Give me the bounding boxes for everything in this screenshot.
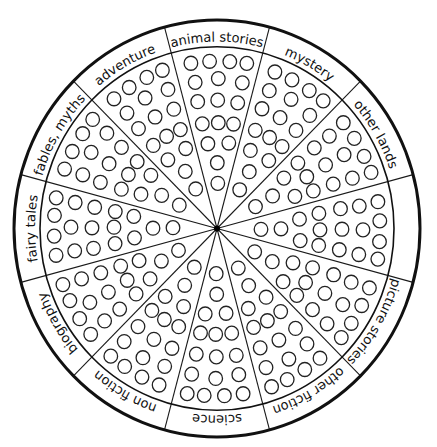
reading-slot-circle[interactable] xyxy=(261,314,275,328)
reading-slot-circle[interactable] xyxy=(298,363,312,377)
reading-slot-circle[interactable] xyxy=(312,238,326,252)
reading-slot-circle[interactable] xyxy=(211,176,225,190)
reading-slot-circle[interactable] xyxy=(48,208,62,222)
reading-slot-circle[interactable] xyxy=(209,327,223,341)
reading-slot-circle[interactable] xyxy=(327,268,341,282)
reading-slot-circle[interactable] xyxy=(140,70,154,84)
reading-slot-circle[interactable] xyxy=(337,148,351,162)
reading-slot-circle[interactable] xyxy=(242,279,256,293)
reading-slot-circle[interactable] xyxy=(47,229,61,243)
reading-slot-circle[interactable] xyxy=(135,370,149,384)
reading-slot-circle[interactable] xyxy=(156,63,170,77)
reading-slot-circle[interactable] xyxy=(259,290,273,304)
reading-slot-circle[interactable] xyxy=(222,136,236,150)
reading-slot-circle[interactable] xyxy=(158,289,172,303)
reading-slot-circle[interactable] xyxy=(249,200,263,214)
reading-slot-circle[interactable] xyxy=(316,94,330,108)
reading-slot-circle[interactable] xyxy=(49,248,63,262)
reading-slot-circle[interactable] xyxy=(85,221,99,235)
reading-slot-circle[interactable] xyxy=(286,256,300,270)
reading-slot-circle[interactable] xyxy=(277,171,291,185)
reading-slot-circle[interactable] xyxy=(178,278,192,292)
reading-slot-circle[interactable] xyxy=(373,214,387,228)
reading-slot-circle[interactable] xyxy=(236,76,250,90)
reading-slot-circle[interactable] xyxy=(232,261,246,275)
reading-slot-circle[interactable] xyxy=(107,92,121,106)
reading-slot-circle[interactable] xyxy=(319,158,333,172)
reading-slot-circle[interactable] xyxy=(276,275,290,289)
reading-slot-circle[interactable] xyxy=(364,165,378,179)
reading-slot-circle[interactable] xyxy=(76,127,90,141)
reading-slot-circle[interactable] xyxy=(272,333,286,347)
reading-slot-circle[interactable] xyxy=(225,326,239,340)
reading-slot-circle[interactable] xyxy=(158,359,172,373)
reading-slot-circle[interactable] xyxy=(371,252,385,266)
reading-slot-circle[interactable] xyxy=(88,200,102,214)
reading-slot-circle[interactable] xyxy=(115,182,129,196)
reading-slot-circle[interactable] xyxy=(146,221,160,235)
reading-slot-circle[interactable] xyxy=(335,222,349,236)
reading-slot-circle[interactable] xyxy=(263,84,277,98)
reading-slot-circle[interactable] xyxy=(291,156,305,170)
reading-slot-circle[interactable] xyxy=(240,56,254,70)
reading-slot-circle[interactable] xyxy=(335,331,349,345)
reading-slot-circle[interactable] xyxy=(263,131,277,145)
reading-slot-circle[interactable] xyxy=(115,140,129,154)
reading-slot-circle[interactable] xyxy=(94,175,108,189)
reading-slot-circle[interactable] xyxy=(253,341,267,355)
reading-slot-circle[interactable] xyxy=(132,254,146,268)
reading-slot-circle[interactable] xyxy=(300,170,314,184)
reading-slot-circle[interactable] xyxy=(148,110,162,124)
reading-slot-circle[interactable] xyxy=(268,65,282,79)
reading-slot-circle[interactable] xyxy=(356,223,370,237)
reading-slot-circle[interactable] xyxy=(212,116,226,130)
reading-slot-circle[interactable] xyxy=(209,371,223,385)
reading-slot-circle[interactable] xyxy=(231,96,245,110)
reading-slot-circle[interactable] xyxy=(122,81,136,95)
reading-slot-circle[interactable] xyxy=(152,378,166,392)
reading-slot-circle[interactable] xyxy=(210,350,224,364)
reading-slot-circle[interactable] xyxy=(219,306,233,320)
reading-slot-circle[interactable] xyxy=(177,300,191,314)
reading-slot-circle[interactable] xyxy=(336,298,350,312)
reading-slot-circle[interactable] xyxy=(303,84,317,98)
reading-slot-circle[interactable] xyxy=(373,235,387,249)
reading-slot-circle[interactable] xyxy=(194,326,208,340)
reading-slot-circle[interactable] xyxy=(179,142,193,156)
reading-slot-circle[interactable] xyxy=(102,157,116,171)
reading-slot-circle[interactable] xyxy=(288,189,302,203)
reading-slot-circle[interactable] xyxy=(83,295,97,309)
reading-slot-circle[interactable] xyxy=(306,261,320,275)
reading-slot-circle[interactable] xyxy=(212,72,226,86)
reading-slot-circle[interactable] xyxy=(357,149,371,163)
reading-slot-circle[interactable] xyxy=(320,317,334,331)
reading-slot-circle[interactable] xyxy=(147,332,161,346)
reading-slot-circle[interactable] xyxy=(132,122,146,136)
reading-slot-circle[interactable] xyxy=(117,335,131,349)
reading-slot-circle[interactable] xyxy=(344,275,358,289)
reading-slot-circle[interactable] xyxy=(303,108,317,122)
reading-slot-circle[interactable] xyxy=(172,243,186,257)
reading-slot-circle[interactable] xyxy=(203,54,217,68)
reading-slot-circle[interactable] xyxy=(167,102,181,116)
reading-slot-circle[interactable] xyxy=(211,156,225,170)
reading-slot-circle[interactable] xyxy=(274,305,288,319)
reading-slot-circle[interactable] xyxy=(275,140,289,154)
reading-slot-circle[interactable] xyxy=(58,162,72,176)
reading-slot-circle[interactable] xyxy=(363,281,377,295)
reading-slot-circle[interactable] xyxy=(155,188,169,202)
reading-slot-circle[interactable] xyxy=(262,154,276,168)
reading-slot-circle[interactable] xyxy=(196,117,210,131)
reading-slot-circle[interactable] xyxy=(102,285,116,299)
reading-slot-circle[interactable] xyxy=(75,272,89,286)
reading-slot-circle[interactable] xyxy=(280,373,294,387)
reading-slot-circle[interactable] xyxy=(108,237,122,251)
reading-slot-circle[interactable] xyxy=(326,177,340,191)
reading-slot-circle[interactable] xyxy=(266,255,280,269)
reading-slot-circle[interactable] xyxy=(209,267,223,281)
reading-slot-circle[interactable] xyxy=(232,368,246,382)
reading-slot-circle[interactable] xyxy=(348,131,362,145)
reading-slot-circle[interactable] xyxy=(293,212,307,226)
reading-slot-circle[interactable] xyxy=(128,231,142,245)
reading-slot-circle[interactable] xyxy=(282,352,296,366)
